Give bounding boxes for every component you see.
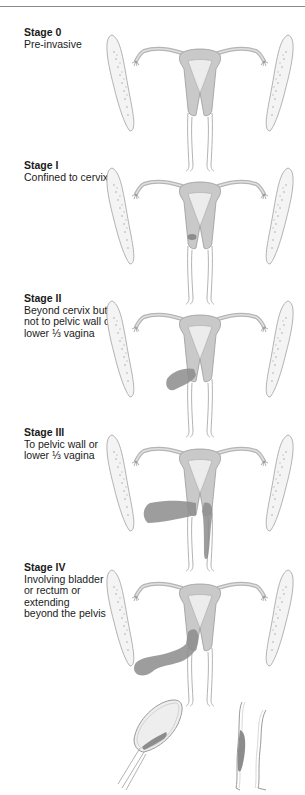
- tumor: [188, 234, 197, 240]
- anatomy-illustration: [100, 160, 300, 310]
- bladder-rectum-inset: [100, 690, 300, 795]
- bladder: [118, 700, 182, 790]
- tumor: [144, 501, 196, 523]
- tumor: [134, 629, 198, 675]
- tumor: [202, 503, 213, 559]
- anatomy-illustration: [100, 427, 300, 577]
- anatomy-illustration: [100, 27, 300, 177]
- top-rule: [0, 6, 305, 7]
- anatomy-illustration: [100, 293, 300, 443]
- rectum: [236, 702, 266, 790]
